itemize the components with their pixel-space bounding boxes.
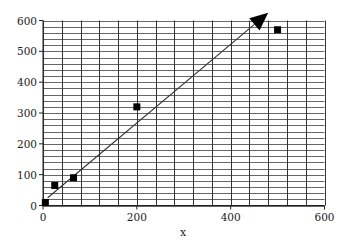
arrow-shaft	[48, 24, 255, 197]
data-point-square	[274, 26, 281, 33]
x-tick-label: 600	[314, 211, 334, 223]
data-point-square	[133, 103, 140, 110]
x-axis-tick-labels: 0200400600	[40, 206, 335, 223]
y-tick-label: 100	[17, 169, 37, 181]
y-tick-label: 300	[17, 107, 37, 119]
data-point-square	[42, 199, 49, 206]
y-tick-label: 0	[30, 200, 37, 212]
data-point-square	[70, 174, 77, 181]
y-tick-label: 500	[17, 45, 37, 57]
y-tick-label: 600	[17, 15, 37, 27]
data-point-square	[51, 182, 58, 189]
data-points	[42, 26, 281, 206]
x-tick-label: 200	[127, 211, 147, 223]
x-tick-label: 0	[40, 211, 47, 223]
x-tick-label: 400	[221, 211, 241, 223]
x-axis-title: x	[180, 226, 187, 239]
y-tick-label: 200	[17, 138, 37, 150]
grid-lines	[43, 21, 326, 207]
y-tick-label: 400	[17, 76, 37, 88]
y-axis-tick-labels: 0100200300400500600	[17, 15, 43, 212]
scatter-chart: 0100200300400500600 0200400600 x	[0, 0, 348, 245]
